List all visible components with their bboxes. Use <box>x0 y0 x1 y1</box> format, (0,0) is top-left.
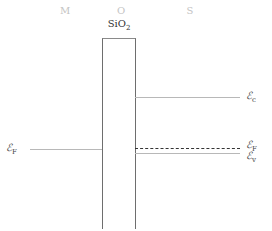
region-label-semiconductor: S <box>187 5 194 16</box>
region-label-metal: M <box>60 5 70 16</box>
fermi-level-metal-label: ℰF <box>6 142 17 156</box>
conduction-band-label: ℰc <box>246 90 256 104</box>
conduction-band-line <box>135 97 240 98</box>
oxide-layer <box>102 38 136 229</box>
valence-band-label: ℰv <box>246 150 256 164</box>
fermi-level-metal-line <box>30 149 102 150</box>
valence-band-line <box>135 153 240 154</box>
region-label-oxide: O <box>117 5 125 16</box>
oxide-label: SiO2 <box>108 18 131 32</box>
fermi-level-semiconductor-line <box>135 148 240 149</box>
